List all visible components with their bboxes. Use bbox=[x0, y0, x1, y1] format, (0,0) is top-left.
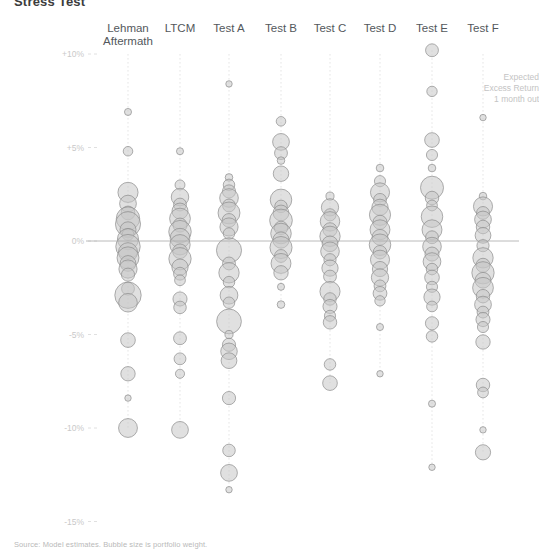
column-header-test-b[interactable]: Test B bbox=[265, 22, 297, 35]
column-header-line: Lehman bbox=[103, 22, 153, 35]
bubble-point[interactable] bbox=[426, 331, 438, 343]
bubble-point[interactable] bbox=[426, 44, 439, 57]
bubble-point[interactable] bbox=[119, 293, 138, 312]
bubble-point[interactable] bbox=[223, 444, 236, 457]
bubble-point[interactable] bbox=[125, 395, 131, 401]
column-header-lehman-aftermath[interactable]: LehmanAftermath bbox=[103, 22, 153, 47]
bubble-point[interactable] bbox=[174, 353, 186, 365]
y-axis-title-line-2: Excess Return bbox=[451, 83, 539, 94]
column-header-test-a[interactable]: Test A bbox=[213, 22, 244, 35]
bubble-point[interactable] bbox=[223, 297, 235, 309]
bubble-point[interactable] bbox=[323, 316, 336, 329]
column-header-line: Aftermath bbox=[103, 35, 153, 48]
bubble-point[interactable] bbox=[121, 333, 136, 348]
bubble-point[interactable] bbox=[119, 419, 138, 438]
bubble-point[interactable] bbox=[124, 108, 131, 115]
bubble-point[interactable] bbox=[273, 166, 288, 181]
bubble-point[interactable] bbox=[428, 164, 436, 172]
y-axis-title-line-3: 1 month out bbox=[451, 94, 539, 105]
bubble-point[interactable] bbox=[428, 400, 435, 407]
column-header-test-f[interactable]: Test F bbox=[467, 22, 498, 35]
bubble-point[interactable] bbox=[480, 114, 486, 120]
bubble-point[interactable] bbox=[429, 464, 435, 470]
y-tick-label: 0% bbox=[36, 236, 84, 246]
bubble-column-lehman-aftermath bbox=[115, 108, 141, 437]
bubble-point[interactable] bbox=[123, 146, 133, 156]
bubble-point[interactable] bbox=[478, 387, 489, 398]
bubble-point[interactable] bbox=[476, 335, 490, 349]
y-tick-label: +5% bbox=[36, 143, 84, 153]
bubble-point[interactable] bbox=[172, 421, 189, 438]
bubble-point[interactable] bbox=[277, 283, 284, 290]
bubble-point[interactable] bbox=[174, 301, 187, 314]
bubble-point[interactable] bbox=[324, 270, 337, 283]
y-axis-title: Expected Excess Return 1 month out bbox=[451, 72, 539, 105]
bubble-point[interactable] bbox=[221, 464, 238, 481]
bubble-column-test-c bbox=[320, 192, 340, 390]
bubble-point[interactable] bbox=[475, 445, 490, 460]
column-header-test-c[interactable]: Test C bbox=[314, 22, 347, 35]
bubble-point[interactable] bbox=[221, 353, 237, 369]
bubble-point[interactable] bbox=[377, 371, 383, 377]
bubble-point[interactable] bbox=[226, 486, 232, 492]
y-axis-title-line-1: Expected bbox=[451, 72, 539, 83]
bubble-point[interactable] bbox=[427, 301, 438, 312]
bubble-point[interactable] bbox=[376, 323, 383, 330]
bubble-point[interactable] bbox=[121, 367, 135, 381]
bubble-point[interactable] bbox=[175, 369, 184, 378]
bubble-point[interactable] bbox=[375, 296, 385, 306]
bubble-point[interactable] bbox=[324, 359, 336, 371]
bubble-point[interactable] bbox=[425, 133, 440, 148]
bubble-column-test-d bbox=[369, 164, 391, 377]
bubble-point[interactable] bbox=[121, 268, 134, 281]
bubble-point[interactable] bbox=[217, 309, 242, 334]
bubble-point[interactable] bbox=[176, 148, 183, 155]
bubble-point[interactable] bbox=[427, 86, 437, 96]
bubble-point[interactable] bbox=[477, 321, 488, 332]
bubble-point[interactable] bbox=[323, 376, 338, 391]
column-header-test-e[interactable]: Test E bbox=[416, 22, 448, 35]
bubble-point[interactable] bbox=[222, 391, 235, 404]
column-header-ltcm[interactable]: LTCM bbox=[165, 22, 195, 35]
bubble-column-test-b bbox=[270, 117, 293, 309]
bubble-point[interactable] bbox=[226, 81, 232, 87]
bubble-point[interactable] bbox=[174, 332, 187, 345]
stress-test-chart: Stress Test +10%+5%0%-5%-10%-15% Expecte… bbox=[0, 0, 539, 551]
bubble-point[interactable] bbox=[274, 266, 288, 280]
bubble-point[interactable] bbox=[276, 117, 286, 127]
bubble-point[interactable] bbox=[277, 157, 285, 165]
y-tick-label: -15% bbox=[36, 517, 84, 527]
y-tick-label: -5% bbox=[36, 330, 84, 340]
bubble-point[interactable] bbox=[425, 317, 438, 330]
bubble-point[interactable] bbox=[277, 301, 285, 309]
y-tick-label: +10% bbox=[36, 49, 84, 59]
bubble-point[interactable] bbox=[175, 275, 186, 286]
bubble-point[interactable] bbox=[426, 149, 437, 160]
column-header-test-d[interactable]: Test D bbox=[364, 22, 397, 35]
chart-footnote: Source: Model estimates. Bubble size is … bbox=[14, 540, 207, 549]
bubble-point[interactable] bbox=[376, 164, 384, 172]
y-tick-label: -10% bbox=[36, 423, 84, 433]
bubble-point[interactable] bbox=[480, 427, 486, 433]
bubble-point[interactable] bbox=[225, 330, 233, 338]
